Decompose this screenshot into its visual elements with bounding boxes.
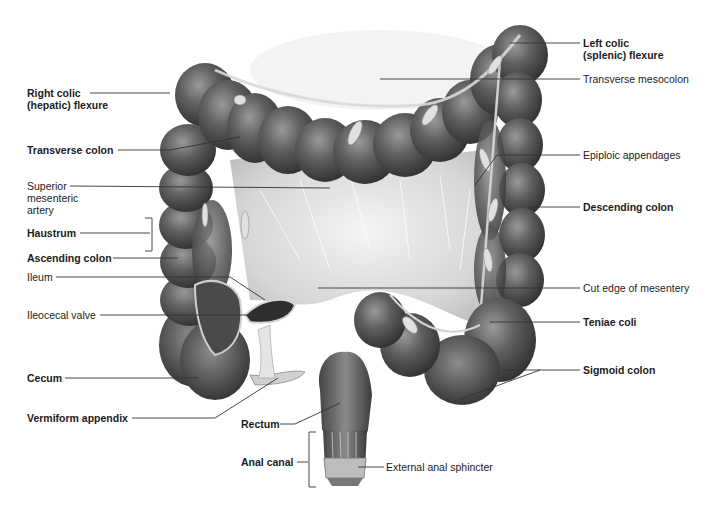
label-line: Left colic [583,37,664,49]
label-external-anal-sphincter: External anal sphincter [386,461,493,473]
label-epiploic-appendages: Epiploic appendages [583,149,681,161]
label-ascending-colon: Ascending colon [27,252,112,264]
label-cut-edge-of-mesentery: Cut edge of mesentery [583,282,689,294]
label-transverse-colon: Transverse colon [27,144,113,156]
label-rectum: Rectum [241,418,280,430]
label-ileum: Ileum [27,271,53,283]
label-teniae-coli: Teniae coli [583,316,637,328]
label-line: (hepatic) flexure [27,99,108,111]
rectum-shape [319,352,372,486]
label-anal-canal: Anal canal [241,456,294,468]
label-haustrum: Haustrum [27,227,76,239]
label-line: (splenic) flexure [583,49,664,61]
appendix-shape [250,325,305,385]
label-ileocecal-valve: Ileocecal valve [27,309,96,321]
label-vermiform-appendix: Vermiform appendix [27,412,128,424]
label-line: Right colic [27,87,108,99]
label-right-colic-flexure: Right colic (hepatic) flexure [27,87,108,111]
label-line: artery [27,204,78,216]
label-sigmoid-colon: Sigmoid colon [583,364,655,376]
label-descending-colon: Descending colon [583,201,673,213]
label-cecum: Cecum [27,372,62,384]
label-line: mesenteric [27,192,78,204]
label-transverse-mesocolon: Transverse mesocolon [583,73,689,85]
label-left-colic-flexure: Left colic (splenic) flexure [583,37,664,61]
label-superior-mesenteric-artery: Superior mesenteric artery [27,180,78,216]
label-line: Superior [27,180,78,192]
